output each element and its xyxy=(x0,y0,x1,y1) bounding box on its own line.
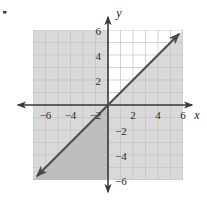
scan-artifact-mark xyxy=(3,11,7,14)
y-tick-label-minus-6: −6 xyxy=(115,175,127,187)
y-tick-label-minus-2: −2 xyxy=(115,125,127,137)
y-tick-label-6: 6 xyxy=(96,25,102,37)
x-tick-label-6: 6 xyxy=(180,109,186,121)
x-tick-label-minus-4: −4 xyxy=(65,109,77,121)
y-tick-label-minus-4: −4 xyxy=(115,150,127,162)
x-tick-label-minus-6: −6 xyxy=(40,109,52,121)
x-tick-label-4: 4 xyxy=(155,109,161,121)
x-tick-label-minus-2: −2 xyxy=(90,109,102,121)
coordinate-plane-svg: −6 −4 −2 2 4 6 6 4 2 −2 −4 −6 x y xyxy=(0,0,207,201)
y-tick-label-4: 4 xyxy=(96,50,102,62)
x-axis-label: x xyxy=(193,108,200,122)
x-tick-label-2: 2 xyxy=(130,109,136,121)
graph-figure: −6 −4 −2 2 4 6 6 4 2 −2 −4 −6 x y xyxy=(0,0,207,201)
y-tick-label-2: 2 xyxy=(96,75,102,87)
y-axis-label: y xyxy=(115,6,122,20)
